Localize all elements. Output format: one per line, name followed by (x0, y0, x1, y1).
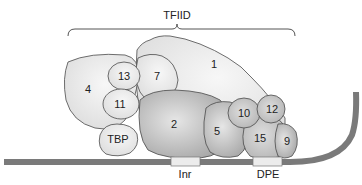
dpe-box (253, 157, 282, 166)
tfiid-title: TFIID (163, 9, 191, 21)
inr-label: Inr (179, 168, 192, 180)
subunit-label-1: 1 (211, 58, 217, 70)
subunit-label-10: 10 (238, 107, 250, 119)
subunit-label-2: 2 (171, 118, 177, 130)
subunit-label-5: 5 (214, 125, 220, 137)
dpe-label: DPE (257, 168, 280, 180)
inr-box (171, 157, 200, 166)
subunit-label-11: 11 (114, 98, 125, 110)
subunit-label-4: 4 (85, 83, 91, 95)
subunit-label-tbp: TBP (107, 133, 128, 145)
tfiid-bracket (68, 24, 295, 36)
subunit-label-7: 7 (154, 70, 160, 82)
subunit-label-13: 13 (118, 70, 130, 82)
subunit-label-9: 9 (284, 135, 290, 147)
subunit-label-15: 15 (254, 132, 266, 144)
subunit-label-12: 12 (266, 103, 278, 115)
tfiid-diagram: TFIID 1 2 4 5 7 9 10 11 12 13 15 TBP Inr… (0, 0, 362, 185)
